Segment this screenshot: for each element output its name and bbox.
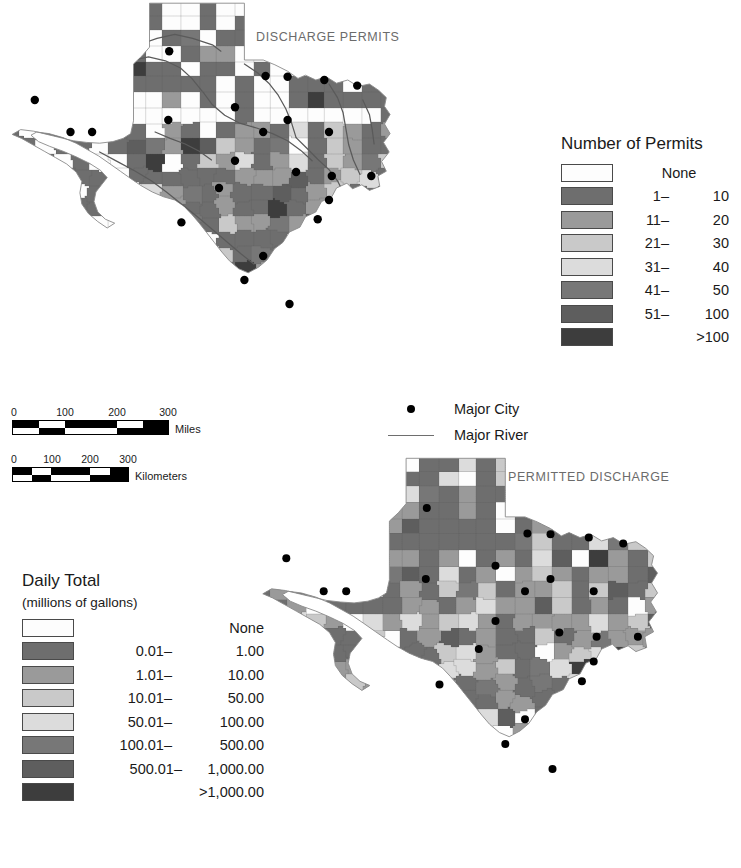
legend-label: 21– 30	[629, 235, 729, 251]
permitted-discharge-map	[250, 455, 741, 868]
legend-range-low: 21–	[629, 235, 669, 251]
symbol-key: Major City Major River	[378, 396, 528, 448]
legend-range-low: 500.01–	[86, 761, 182, 777]
legend-swatch	[22, 666, 74, 684]
key-label: Major River	[454, 427, 528, 443]
legend-label: 11– 20	[629, 212, 729, 228]
daily-legend-subtitle: (millions of gallons)	[22, 595, 264, 610]
legend-label: 1– 10	[629, 188, 729, 204]
legend-swatch	[22, 760, 74, 778]
legend-item[interactable]: 10.01– 50.00	[22, 687, 264, 711]
texas-map-permits-svg	[0, 0, 470, 400]
permits-legend-rows: None 1– 10 11– 20 21– 30	[561, 161, 729, 349]
legend-label: 31– 40	[629, 259, 729, 275]
scale-tick: 300	[119, 453, 137, 465]
legend-range-high: 100	[689, 306, 729, 322]
legend-swatch	[561, 234, 613, 252]
legend-label: 100.01– 500.00	[86, 737, 264, 753]
legend-item[interactable]: 51– 100	[561, 302, 729, 326]
legend-item[interactable]: 0.01– 1.00	[22, 640, 264, 664]
legend-label: 10.01– 50.00	[86, 690, 264, 706]
scale-tick: 200	[108, 406, 126, 418]
scale-ticks-miles: 0 100 200 300	[12, 406, 172, 420]
legend-label: None	[86, 620, 264, 636]
legend-label: 500.01– 1,000.00	[86, 761, 264, 777]
legend-item[interactable]: 21– 30	[561, 232, 729, 256]
legend-swatch	[561, 258, 613, 276]
legend-range-low: 41–	[629, 282, 669, 298]
permits-legend-title: Number of Permits	[561, 134, 729, 154]
legend-item[interactable]: >100	[561, 326, 729, 350]
legend-swatch	[22, 642, 74, 660]
major-river-icon	[378, 435, 444, 436]
legend-label: None	[629, 165, 729, 181]
map-title-discharge-permits: DISCHARGE PERMITS	[256, 30, 400, 44]
legend-swatch	[561, 187, 613, 205]
permits-legend: Number of Permits None 1– 10 11– 20 21– …	[561, 134, 729, 349]
legend-swatch	[22, 619, 74, 637]
legend-range-low: 10.01–	[86, 690, 172, 706]
legend-label: >100	[629, 329, 729, 345]
legend-range-low: 31–	[629, 259, 669, 275]
legend-range-high: 20	[689, 212, 729, 228]
legend-swatch	[561, 211, 613, 229]
scale-tick: 300	[159, 406, 177, 418]
scale-tick: 0	[11, 406, 17, 418]
legend-swatch	[22, 713, 74, 731]
scale-ticks-kilometers: 0 100 200 300	[12, 453, 130, 467]
legend-swatch	[561, 328, 613, 346]
legend-label: 0.01– 1.00	[86, 643, 264, 659]
daily-total-legend: Daily Total (millions of gallons) None 0…	[22, 571, 264, 804]
scale-bar-graphic-miles	[12, 420, 169, 435]
legend-range-low: 51–	[629, 306, 669, 322]
scale-tick: 0	[11, 453, 17, 465]
legend-item[interactable]: 1– 10	[561, 185, 729, 209]
texas-map-discharge-svg	[250, 455, 741, 868]
legend-range-low: 0.01–	[86, 643, 172, 659]
legend-item[interactable]: None	[561, 161, 729, 185]
legend-range-high: 30	[689, 235, 729, 251]
legend-swatch	[561, 164, 613, 182]
daily-legend-rows: None 0.01– 1.00 1.01– 10.00 10.01– 50.00	[22, 616, 264, 804]
scale-tick: 100	[56, 406, 74, 418]
scale-unit-label: Kilometers	[135, 470, 187, 482]
legend-range-high: 10	[689, 188, 729, 204]
legend-item[interactable]: 50.01– 100.00	[22, 710, 264, 734]
major-city-icon	[378, 405, 444, 413]
legend-item[interactable]: 1.01– 10.00	[22, 663, 264, 687]
legend-swatch	[22, 783, 74, 801]
legend-label: >1,000.00	[86, 784, 264, 800]
legend-item[interactable]: 31– 40	[561, 255, 729, 279]
legend-range-low: 1.01–	[86, 667, 172, 683]
legend-swatch	[561, 305, 613, 323]
legend-label: 41– 50	[629, 282, 729, 298]
key-item-major-city[interactable]: Major City	[378, 396, 528, 422]
legend-range-low: 100.01–	[86, 737, 172, 753]
scale-bar-miles: 0 100 200 300 Miles	[12, 406, 201, 435]
legend-item[interactable]: 11– 20	[561, 208, 729, 232]
legend-item[interactable]: >1,000.00	[22, 781, 264, 805]
legend-item[interactable]: 500.01– 1,000.00	[22, 757, 264, 781]
legend-label: 1.01– 10.00	[86, 667, 264, 683]
legend-range-low: 50.01–	[86, 714, 172, 730]
scale-unit-label: Miles	[175, 423, 201, 435]
legend-swatch	[561, 281, 613, 299]
legend-item[interactable]: 100.01– 500.00	[22, 734, 264, 758]
scale-tick: 200	[81, 453, 99, 465]
legend-range-low: 11–	[629, 212, 669, 228]
legend-item[interactable]: None	[22, 616, 264, 640]
key-item-major-river[interactable]: Major River	[378, 422, 528, 448]
legend-swatch	[22, 736, 74, 754]
legend-item[interactable]: 41– 50	[561, 279, 729, 303]
legend-range-high: 40	[689, 259, 729, 275]
scale-tick: 100	[43, 453, 61, 465]
scale-bar-graphic-kilometers	[12, 467, 129, 482]
scale-bar-kilometers: 0 100 200 300 Kilometers	[12, 453, 187, 482]
map-title-permitted-discharge: PERMITTED DISCHARGE	[508, 470, 669, 484]
legend-label: 51– 100	[629, 306, 729, 322]
daily-legend-title: Daily Total	[22, 571, 264, 591]
legend-range-high: 50	[689, 282, 729, 298]
legend-label: 50.01– 100.00	[86, 714, 264, 730]
key-label: Major City	[454, 401, 519, 417]
legend-swatch	[22, 689, 74, 707]
